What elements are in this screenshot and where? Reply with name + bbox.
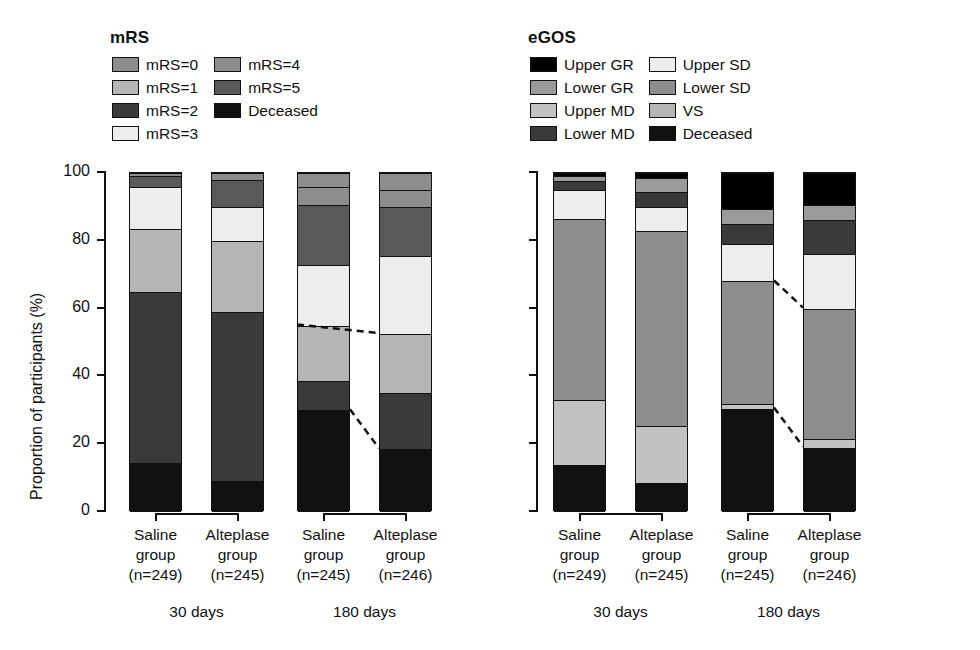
stacked-bar xyxy=(635,172,688,511)
y-axis-line xyxy=(536,171,538,512)
x-axis-group-label: 180 days xyxy=(729,603,849,621)
y-axis-tick xyxy=(529,171,536,173)
bar-segment xyxy=(380,449,431,512)
legend-swatch-icon xyxy=(214,103,241,118)
x-axis-group-bracket xyxy=(156,513,238,515)
legend-swatch-icon xyxy=(214,80,241,95)
legend-swatch-icon xyxy=(530,103,557,118)
bar-segment xyxy=(636,426,687,484)
x-axis-group-bracket xyxy=(580,513,662,515)
bar-segment xyxy=(722,209,773,224)
bar-segment xyxy=(804,448,855,512)
bar-segment xyxy=(636,173,687,178)
legend-item-egos-deceased: Deceased xyxy=(649,124,753,143)
category-group: group xyxy=(760,545,900,565)
stacked-bar xyxy=(721,172,774,511)
stacked-bar xyxy=(211,172,264,511)
bar-segment xyxy=(212,481,263,512)
legend-column-2: mRS=4 mRS=5 Deceased xyxy=(214,55,318,143)
legend-label: mRS=5 xyxy=(248,80,300,95)
bar-segment xyxy=(298,265,349,326)
legend-label: mRS=1 xyxy=(146,80,198,95)
x-axis-group-bracket xyxy=(324,513,406,515)
bar-segment xyxy=(554,190,605,219)
legend-item-lower-gr: Lower GR xyxy=(530,78,635,97)
y-axis-tick xyxy=(97,442,104,444)
bar-segment xyxy=(554,400,605,464)
bar-segment xyxy=(212,173,263,180)
panel-mrs: mRS mRS=0 mRS=1 mRS=2 mRS=3 mRS=4 xyxy=(0,0,490,650)
category-name: Alteplase xyxy=(336,525,476,545)
legend-label: Upper GR xyxy=(564,57,634,72)
y-axis-tick-label: 20 xyxy=(44,433,90,451)
x-axis-group-bracket xyxy=(748,513,830,515)
legend-swatch-icon xyxy=(112,103,139,118)
legend-title-egos: eGOS xyxy=(528,28,576,48)
legend-item-lower-sd: Lower SD xyxy=(649,78,753,97)
legend-item-lower-md: Lower MD xyxy=(530,124,635,143)
bar-segment xyxy=(636,192,687,207)
bar-segment xyxy=(298,205,349,264)
x-axis-group-label: 180 days xyxy=(305,603,425,621)
bar-segment xyxy=(380,334,431,393)
y-axis-tick-label: 0 xyxy=(44,501,90,519)
legend-swatch-icon xyxy=(530,57,557,72)
legend-label: Lower MD xyxy=(564,126,635,141)
y-axis-tick xyxy=(529,239,536,241)
bar-segment xyxy=(380,393,431,449)
stacked-bar xyxy=(553,172,606,511)
legend-label: Lower SD xyxy=(683,80,751,95)
legend-item-vs: VS xyxy=(649,101,753,120)
y-axis-tick xyxy=(97,171,104,173)
bar-segment xyxy=(804,220,855,254)
legend-label: Upper SD xyxy=(683,57,751,72)
legend-mrs: mRS=0 mRS=1 mRS=2 mRS=3 mRS=4 mRS=5 xyxy=(112,55,318,143)
bar-segment xyxy=(380,256,431,334)
bar-segment xyxy=(636,207,687,231)
category-group: group xyxy=(336,545,476,565)
legend-item-mrs-3: mRS=3 xyxy=(112,124,198,143)
y-axis-tick xyxy=(97,239,104,241)
bar-segment xyxy=(380,207,431,256)
legend-item-mrs-5: mRS=5 xyxy=(214,78,318,97)
bar-segment xyxy=(554,173,605,176)
bar-segment xyxy=(212,207,263,241)
bar-segment xyxy=(380,173,431,190)
bar-segment xyxy=(722,244,773,281)
legend-label: mRS=3 xyxy=(146,126,198,141)
y-axis-label: Proportion of participants (%) xyxy=(28,293,46,500)
legend-swatch-icon xyxy=(530,126,557,141)
bar-segment xyxy=(804,173,855,205)
legend-column-1: mRS=0 mRS=1 mRS=2 mRS=3 xyxy=(112,55,198,143)
legend-item-upper-gr: Upper GR xyxy=(530,55,635,74)
legend-swatch-icon xyxy=(649,57,676,72)
bar-segment xyxy=(636,231,687,426)
y-axis-line xyxy=(104,171,106,512)
legend-item-mrs-deceased: Deceased xyxy=(214,101,318,120)
bar-segment xyxy=(298,187,349,206)
legend-column-1: Upper GR Lower GR Upper MD Lower MD xyxy=(530,55,635,143)
y-axis-tick xyxy=(97,374,104,376)
bar-segment xyxy=(804,439,855,447)
legend-swatch-icon xyxy=(530,80,557,95)
bar-segment xyxy=(722,404,773,409)
bar-segment xyxy=(804,309,855,440)
y-axis-tick xyxy=(529,510,536,512)
bar-segment xyxy=(804,205,855,220)
legend-label: mRS=4 xyxy=(248,57,300,72)
legend-column-2: Upper SD Lower SD VS Deceased xyxy=(649,55,753,143)
category-count: (n=246) xyxy=(760,565,900,585)
legend-label: Deceased xyxy=(248,103,318,118)
legend-egos: Upper GR Lower GR Upper MD Lower MD Uppe… xyxy=(530,55,752,143)
bar-segment xyxy=(298,410,349,512)
y-axis-tick xyxy=(529,307,536,309)
y-axis-tick xyxy=(529,374,536,376)
bar-segment xyxy=(636,483,687,512)
x-axis-category-label: Alteplasegroup(n=246) xyxy=(760,525,900,585)
legend-item-mrs-2: mRS=2 xyxy=(112,101,198,120)
legend-label: Upper MD xyxy=(564,103,635,118)
y-axis-tick-label: 100 xyxy=(44,162,90,180)
y-axis-tick xyxy=(97,307,104,309)
legend-swatch-icon xyxy=(112,57,139,72)
bar-segment xyxy=(130,463,181,512)
